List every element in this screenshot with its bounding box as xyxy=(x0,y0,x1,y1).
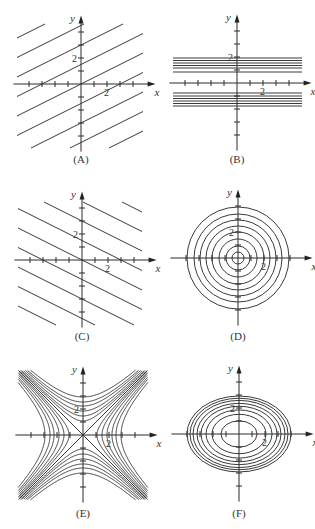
y-axis-label: y xyxy=(226,186,232,198)
y-arrow-icon xyxy=(79,15,84,23)
contour-curves xyxy=(18,202,142,325)
x-tick-label: 2 xyxy=(261,261,266,272)
x-axis-label: x xyxy=(154,86,160,98)
y-tick-label: 2 xyxy=(73,229,78,240)
panel-a: xy22(A) xyxy=(13,12,159,166)
y-tick-label: 2 xyxy=(72,53,77,64)
panel-caption: (C) xyxy=(75,330,90,343)
panel-f: xy22(F) xyxy=(171,362,315,520)
contour-figure: xy22(A)xy22(B)xy22(C)xy22(D)xy22(E)xy22(… xyxy=(0,0,315,529)
x-axis-label: x xyxy=(312,436,315,448)
panel-d: xy22(D) xyxy=(170,186,315,343)
x-axis-label: x xyxy=(155,262,161,274)
y-axis-label: y xyxy=(225,11,231,23)
x-axis-label: x xyxy=(311,260,315,272)
x-tick-label: 2 xyxy=(262,437,267,448)
y-arrow-icon xyxy=(237,365,242,373)
x-tick-label: 2 xyxy=(104,87,109,98)
y-axis-label: y xyxy=(227,362,233,374)
contour-curves xyxy=(17,24,143,148)
y-arrow-icon xyxy=(80,191,85,199)
panel-caption: (B) xyxy=(230,153,245,166)
axes: xy22 xyxy=(14,188,160,327)
y-tick-label: 2 xyxy=(229,227,234,238)
x-tick-label: 2 xyxy=(105,263,110,274)
panel-caption: (F) xyxy=(232,507,246,520)
y-tick-label: 2 xyxy=(74,404,79,415)
y-axis-label: y xyxy=(70,188,76,200)
y-tick-label: 2 xyxy=(228,52,233,63)
panel-caption: (E) xyxy=(76,507,90,520)
panel-e: xy22(E) xyxy=(15,363,161,520)
x-tick-label: 2 xyxy=(106,438,111,449)
x-axis-label: x xyxy=(310,85,315,97)
y-tick-label: 2 xyxy=(230,403,235,414)
x-tick-label: 2 xyxy=(260,86,265,97)
panel-b: xy22(B) xyxy=(169,11,315,166)
panel-c: xy22(C) xyxy=(14,188,160,343)
y-axis-label: y xyxy=(71,363,77,375)
y-arrow-icon xyxy=(236,189,241,197)
axes: xy22 xyxy=(169,11,315,150)
y-arrow-icon xyxy=(81,366,86,374)
y-axis-label: y xyxy=(69,12,75,24)
panel-caption: (D) xyxy=(230,330,246,343)
y-arrow-icon xyxy=(235,14,240,22)
panel-caption: (A) xyxy=(73,153,89,166)
axes: xy22 xyxy=(13,12,159,151)
x-axis-label: x xyxy=(156,437,162,449)
